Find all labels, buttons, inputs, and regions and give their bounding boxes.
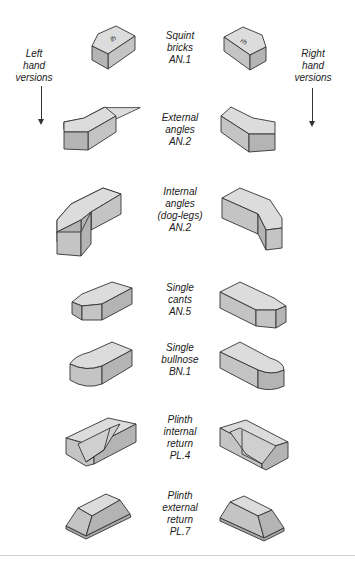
single-cant-right-icon — [218, 280, 290, 334]
left-label-line: hand — [4, 60, 64, 72]
down-arrow-icon-left — [41, 86, 42, 120]
label-line: BN.1 — [148, 366, 212, 378]
right-label-line: Right — [283, 48, 343, 60]
brick-label-plinth-internal-return: Plinth internal return PL.4 — [150, 414, 210, 462]
external-angle-left-icon — [62, 104, 142, 156]
brick-label-plinth-external-return: Plinth external return PL.7 — [150, 490, 210, 538]
bottom-divider — [0, 555, 355, 556]
single-bullnose-right-icon — [218, 340, 294, 396]
plinth-external-return-left-icon — [64, 492, 144, 542]
label-line: Squint — [150, 30, 210, 42]
internal-angle-left-icon — [55, 184, 135, 264]
brick-label-external-angles: External angles AN.2 — [150, 112, 210, 148]
external-angle-right-icon — [219, 104, 299, 160]
squint-brick-right-icon: rh — [220, 25, 272, 77]
label-line: PL.4 — [150, 450, 210, 462]
label-line: Internal — [148, 186, 212, 198]
label-line: Plinth — [150, 490, 210, 502]
label-line: angles — [148, 198, 212, 210]
single-bullnose-left-icon — [66, 340, 142, 396]
label-line: (dog-legs) — [148, 210, 212, 222]
left-label-line: Left — [4, 48, 64, 60]
left-label-line: versions — [4, 72, 64, 84]
plinth-internal-return-right-icon — [218, 418, 298, 480]
label-line: PL.7 — [150, 526, 210, 538]
label-line: angles — [150, 124, 210, 136]
label-line: return — [150, 514, 210, 526]
label-line: Single — [148, 342, 212, 354]
label-line: AN.2 — [148, 222, 212, 234]
label-line: internal — [150, 426, 210, 438]
right-hand-versions-label: Right hand versions — [283, 48, 343, 84]
plinth-internal-return-left-icon — [64, 414, 144, 476]
down-arrow-icon-right — [312, 88, 313, 122]
label-line: return — [150, 438, 210, 450]
label-line: bricks — [150, 42, 210, 54]
brick-label-single-cants: Single cants AN.5 — [150, 282, 210, 318]
brick-label-squint: Squint bricks AN.1 — [150, 30, 210, 66]
label-line: Single — [150, 282, 210, 294]
squint-brick-left-icon: lh — [88, 24, 140, 76]
label-line: cants — [150, 294, 210, 306]
label-line: AN.1 — [150, 54, 210, 66]
right-label-line: versions — [283, 72, 343, 84]
label-line: External — [150, 112, 210, 124]
label-line: external — [150, 502, 210, 514]
left-hand-versions-label: Left hand versions — [4, 48, 64, 84]
label-line: AN.2 — [150, 136, 210, 148]
label-line: Plinth — [150, 414, 210, 426]
label-line: bullnose — [148, 354, 212, 366]
internal-angle-right-icon — [220, 184, 300, 264]
label-line: AN.5 — [150, 306, 210, 318]
single-cant-left-icon — [70, 280, 142, 330]
right-label-line: hand — [283, 60, 343, 72]
brick-label-internal-angles: Internal angles (dog-legs) AN.2 — [148, 186, 212, 234]
plinth-external-return-right-icon — [218, 494, 298, 546]
brick-label-single-bullnose: Single bullnose BN.1 — [148, 342, 212, 378]
